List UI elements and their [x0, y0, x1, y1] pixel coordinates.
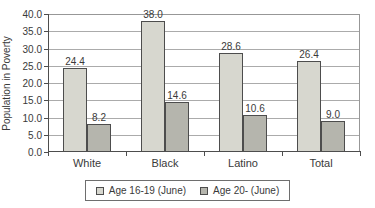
- bar-total-age-20-june: [321, 121, 345, 152]
- value-label-total-age-16-19-june: 26.4: [299, 49, 318, 60]
- y-tick-label: 5.0: [0, 130, 42, 141]
- legend-item-age-20-june: Age 20- (June): [200, 185, 279, 196]
- x-tick-mark: [204, 152, 205, 156]
- y-tick-label: 0.0: [0, 147, 42, 158]
- legend-label: Age 20- (June): [213, 185, 279, 196]
- x-category-label-black: Black: [152, 157, 179, 169]
- value-label-total-age-20-june: 9.0: [326, 109, 340, 120]
- value-label-latino-age-20-june: 10.6: [245, 103, 264, 114]
- legend-box: Age 16-19 (June)Age 20- (June): [85, 180, 290, 201]
- y-tick-label: 15.0: [0, 95, 42, 106]
- poverty-bar-chart: Population in Poverty 0.05.010.015.020.0…: [0, 0, 375, 208]
- bar-black-age-20-june: [165, 102, 189, 152]
- bar-latino-age-16-19-june: [219, 53, 243, 152]
- y-tick-label: 25.0: [0, 61, 42, 72]
- gridline: [48, 31, 360, 32]
- legend-swatch-icon: [200, 187, 208, 195]
- y-tick-label: 30.0: [0, 44, 42, 55]
- value-label-latino-age-16-19-june: 28.6: [221, 41, 240, 52]
- y-tick-label: 10.0: [0, 113, 42, 124]
- bar-white-age-16-19-june: [63, 68, 87, 152]
- plot-area: 24.48.238.014.628.610.626.49.0: [48, 14, 360, 152]
- legend: Age 16-19 (June)Age 20- (June): [0, 180, 375, 201]
- legend-item-age-16-19-june: Age 16-19 (June): [96, 185, 186, 196]
- y-tick-label: 40.0: [0, 9, 42, 20]
- value-label-black-age-20-june: 14.6: [167, 90, 186, 101]
- y-axis-line: [48, 14, 49, 152]
- x-tick-mark: [360, 152, 361, 156]
- bar-latino-age-20-june: [243, 115, 267, 152]
- bar-total-age-16-19-june: [297, 61, 321, 152]
- y-tick-label: 20.0: [0, 78, 42, 89]
- bar-black-age-16-19-june: [141, 21, 165, 152]
- x-tick-mark: [48, 152, 49, 156]
- x-tick-mark: [282, 152, 283, 156]
- legend-label: Age 16-19 (June): [109, 185, 186, 196]
- bar-white-age-20-june: [87, 124, 111, 152]
- x-tick-mark: [126, 152, 127, 156]
- x-category-label-white: White: [73, 157, 101, 169]
- x-category-label-latino: Latino: [228, 157, 258, 169]
- value-label-white-age-20-june: 8.2: [92, 112, 106, 123]
- value-label-black-age-16-19-june: 38.0: [143, 9, 162, 20]
- value-label-white-age-16-19-june: 24.4: [65, 56, 84, 67]
- y-tick-label: 35.0: [0, 26, 42, 37]
- legend-swatch-icon: [96, 187, 104, 195]
- x-category-label-total: Total: [309, 157, 332, 169]
- gridline: [48, 14, 360, 15]
